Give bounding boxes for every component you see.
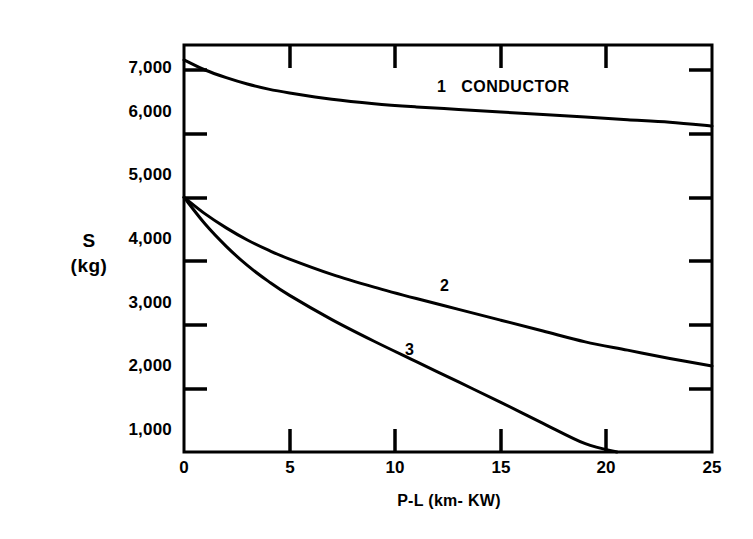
series-line-3 xyxy=(184,197,617,452)
series-line-conductor xyxy=(184,60,712,126)
data-curves xyxy=(184,60,712,452)
y-axis-ticks-right xyxy=(689,70,712,389)
plot-area xyxy=(0,0,753,539)
chart-figure: S (kg) P-L (km- KW) 1,000 2,000 3,000 4,… xyxy=(0,0,753,539)
y-axis-ticks xyxy=(184,70,207,389)
series-line-2 xyxy=(184,197,712,366)
x-axis-ticks-top xyxy=(290,45,606,68)
